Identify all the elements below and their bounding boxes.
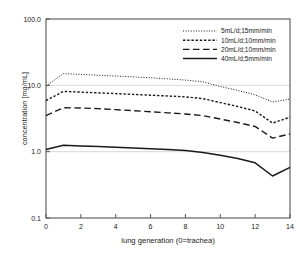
y-tick-labels: 0.11.010.0100.0 bbox=[23, 16, 41, 222]
series-line-0 bbox=[46, 74, 290, 102]
chart-figure: concentration [mg/mL] lung generation (0… bbox=[0, 0, 305, 256]
y-tick-label: 10.0 bbox=[27, 82, 41, 89]
series-line-2 bbox=[46, 108, 290, 138]
series-line-3 bbox=[46, 145, 290, 176]
x-tick-label: 12 bbox=[251, 223, 259, 230]
y-tick-label: 100.0 bbox=[23, 16, 41, 23]
x-tick-marks bbox=[46, 214, 290, 218]
y-tick-label: 0.1 bbox=[31, 215, 41, 222]
legend-label-2: 20mL/d;10mm/min bbox=[221, 46, 276, 53]
legend: 5mL/d;15mm/min10mL/d;10mm/min20mL/d;10mm… bbox=[183, 27, 276, 62]
legend-label-1: 10mL/d;10mm/min bbox=[221, 37, 276, 44]
legend-label-0: 5mL/d;15mm/min bbox=[221, 27, 272, 34]
x-tick-labels: 02468101214 bbox=[44, 223, 294, 230]
series-line-1 bbox=[46, 91, 290, 123]
gridlines bbox=[46, 85, 290, 151]
y-tick-label: 1.0 bbox=[31, 148, 41, 155]
x-tick-label: 6 bbox=[149, 223, 153, 230]
plot-canvas: 0.11.010.0100.0 02468101214 5mL/d;15mm/m… bbox=[0, 0, 305, 256]
x-tick-label: 4 bbox=[114, 223, 118, 230]
x-tick-label: 0 bbox=[44, 223, 48, 230]
x-tick-label: 14 bbox=[286, 223, 294, 230]
x-tick-label: 10 bbox=[216, 223, 224, 230]
x-tick-label: 2 bbox=[79, 223, 83, 230]
x-tick-label: 8 bbox=[183, 223, 187, 230]
y-tick-marks bbox=[46, 19, 50, 218]
legend-label-3: 40mL/d;5mm/min bbox=[221, 55, 272, 62]
data-series-group bbox=[46, 74, 290, 176]
